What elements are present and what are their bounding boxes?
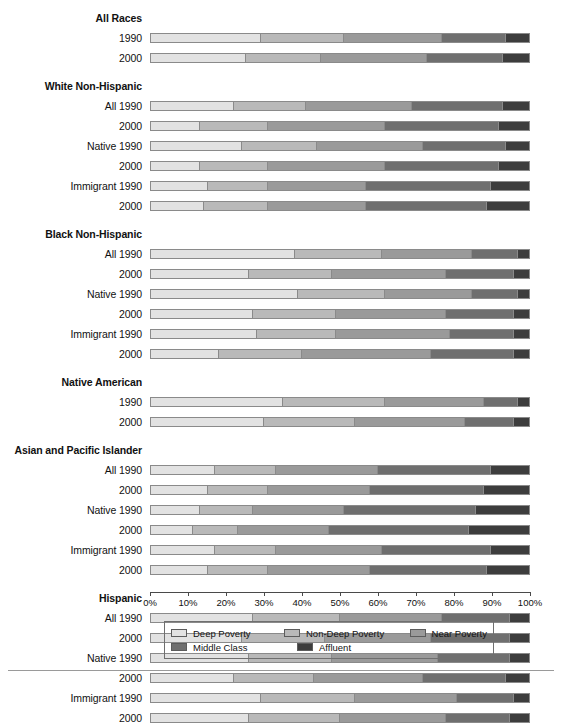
x-axis-tick-label: 100% (518, 597, 542, 608)
bar-segment (151, 350, 219, 358)
bar-row: All 1990 (0, 244, 562, 264)
stacked-bar (150, 181, 530, 191)
bar-segment (457, 694, 514, 702)
bar-segment (314, 674, 424, 682)
stacked-bar (150, 269, 530, 279)
bar-row: 2000 (0, 48, 562, 68)
bar-row: All 1990 (0, 460, 562, 480)
bar-segment (151, 330, 257, 338)
stacked-bar (150, 713, 530, 723)
stacked-bar (150, 101, 530, 111)
bar-row-label: 2000 (0, 560, 142, 580)
bar-segment (412, 102, 503, 110)
bar-segment (264, 418, 355, 426)
bar-segment (450, 330, 514, 338)
bar-row: 1990 (0, 28, 562, 48)
x-axis-tick-label: 20% (216, 597, 235, 608)
bar-segment (385, 290, 472, 298)
bar-segment (355, 694, 457, 702)
bar-segment (506, 34, 529, 42)
bar-row-label: Native 1990 (0, 648, 142, 668)
bar-row: 2000 (0, 668, 562, 688)
bar-row: 2000 (0, 520, 562, 540)
bar-segment (329, 526, 469, 534)
chart-legend: Deep Poverty Non-Deep Poverty Near Pover… (164, 621, 494, 659)
bar-segment (332, 270, 445, 278)
bar-row-label: Immigrant 1990 (0, 688, 142, 708)
stacked-bar (150, 673, 530, 683)
bar-segment (378, 466, 491, 474)
bar-segment (423, 142, 506, 150)
bar-segment (257, 330, 336, 338)
bar-segment (249, 270, 332, 278)
x-axis-tick (340, 592, 341, 596)
bar-row: Native 1990 (0, 136, 562, 156)
legend-swatch-icon (171, 629, 187, 637)
bar-segment (302, 350, 431, 358)
x-axis-tick-label: 70% (406, 597, 425, 608)
x-axis-tick (188, 592, 189, 596)
bar-segment (268, 566, 370, 574)
bar-segment (423, 674, 506, 682)
bar-row-label: Immigrant 1990 (0, 324, 142, 344)
bar-segment (514, 418, 529, 426)
bar-segment (385, 398, 483, 406)
bar-segment (151, 250, 295, 258)
bar-row: Immigrant 1990 (0, 688, 562, 708)
stacked-bar (150, 349, 530, 359)
group-heading: Native American (0, 372, 150, 392)
bar-segment (283, 398, 385, 406)
bar-segment (484, 398, 518, 406)
bar-segment (514, 350, 529, 358)
group-spacer (0, 432, 562, 440)
group-spacer (0, 68, 562, 76)
bar-segment (446, 714, 510, 722)
bar-segment (151, 526, 193, 534)
bar-segment (487, 566, 529, 574)
bar-segment (446, 310, 514, 318)
x-axis-tick-label: 30% (254, 597, 273, 608)
bar-segment (151, 202, 204, 210)
bar-segment (208, 182, 268, 190)
bar-segment (208, 566, 268, 574)
stacked-bar (150, 249, 530, 259)
bar-segment (518, 250, 529, 258)
bar-segment (514, 310, 529, 318)
stacked-bar (150, 141, 530, 151)
bar-row: Immigrant 1990 (0, 324, 562, 344)
legend-label: Middle Class (193, 642, 247, 653)
bar-segment (510, 634, 529, 642)
bar-segment (208, 486, 268, 494)
stacked-bar (150, 545, 530, 555)
bar-row-label: All 1990 (0, 96, 142, 116)
bar-row-label: 2000 (0, 480, 142, 500)
bar-row-label: All 1990 (0, 460, 142, 480)
bar-segment (151, 486, 208, 494)
bar-segment (355, 418, 465, 426)
bar-segment (242, 142, 318, 150)
stacked-bar (150, 565, 530, 575)
bar-segment (487, 202, 529, 210)
bar-segment (506, 674, 529, 682)
stacked-bar (150, 693, 530, 703)
bar-segment (151, 182, 208, 190)
bar-segment (151, 102, 234, 110)
bar-segment (253, 310, 336, 318)
bar-segment (476, 506, 529, 514)
group-spacer (0, 364, 562, 372)
bar-row-label: 2000 (0, 304, 142, 324)
x-axis-tick (226, 592, 227, 596)
bar-segment (151, 674, 234, 682)
bar-row: 2000 (0, 156, 562, 176)
x-axis-tick (416, 592, 417, 596)
bar-segment (321, 54, 427, 62)
stacked-bar (150, 485, 530, 495)
bar-row-label: 2000 (0, 668, 142, 688)
legend-swatch-icon (171, 643, 187, 651)
bar-segment (344, 34, 442, 42)
bar-segment (151, 270, 249, 278)
bar-row: 2000 (0, 708, 562, 727)
bar-row: 2000 (0, 480, 562, 500)
bar-segment (215, 546, 275, 554)
